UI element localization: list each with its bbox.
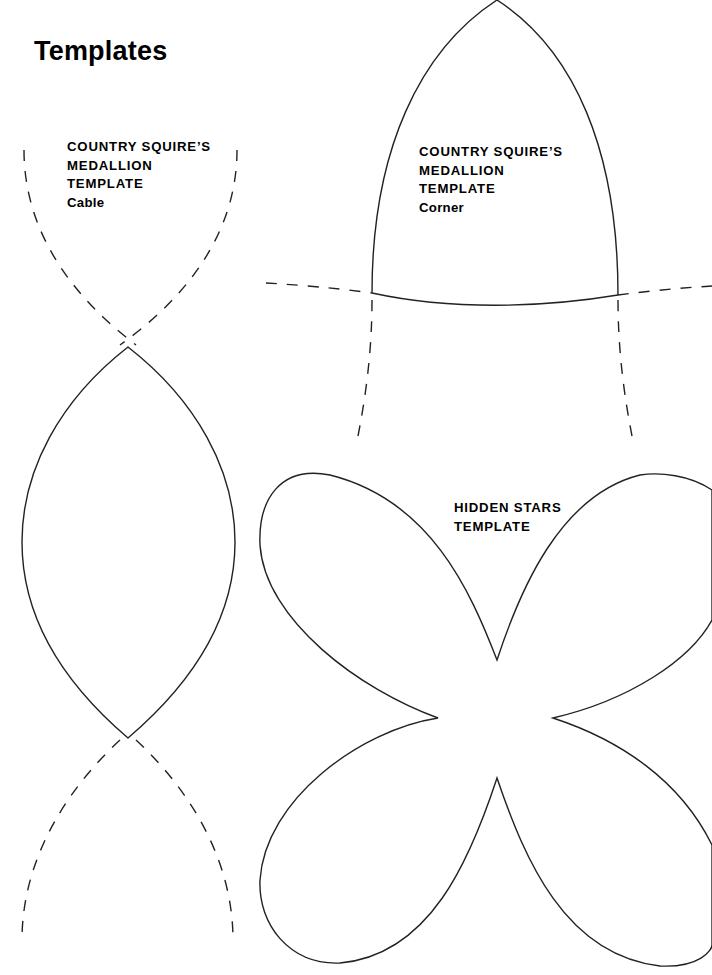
corner-template-label: COUNTRY SQUIRE’S MEDALLION TEMPLATE Corn… bbox=[419, 143, 563, 217]
hidden-stars-template-label: HIDDEN STARS TEMPLATE bbox=[454, 499, 562, 536]
corner-label-subtitle: Corner bbox=[419, 199, 563, 218]
cable-label-line-2: MEDALLION bbox=[67, 157, 211, 176]
hidden-stars-template-shape bbox=[260, 473, 712, 966]
cable-template-shape bbox=[22, 150, 237, 940]
cable-label-line-3: TEMPLATE bbox=[67, 175, 211, 194]
corner-label-line-2: MEDALLION bbox=[419, 162, 563, 181]
hidden-stars-label-line-2: TEMPLATE bbox=[454, 518, 562, 537]
corner-label-line-3: TEMPLATE bbox=[419, 180, 563, 199]
corner-label-line-1: COUNTRY SQUIRE’S bbox=[419, 143, 563, 162]
corner-template-shape bbox=[266, 0, 712, 436]
cable-label-line-1: COUNTRY SQUIRE’S bbox=[67, 138, 211, 157]
hidden-stars-label-line-1: HIDDEN STARS bbox=[454, 499, 562, 518]
cable-label-subtitle: Cable bbox=[67, 194, 211, 213]
cable-template-label: COUNTRY SQUIRE’S MEDALLION TEMPLATE Cabl… bbox=[67, 138, 211, 212]
